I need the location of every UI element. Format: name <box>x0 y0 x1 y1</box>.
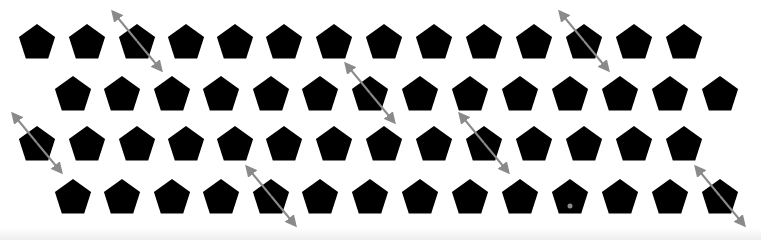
pentagon-icon <box>602 76 638 110</box>
pentagon-icon <box>352 179 388 213</box>
pentagon-icon <box>104 179 140 213</box>
pentagon-icon <box>119 126 155 160</box>
pentagon-icon <box>416 126 452 160</box>
pentagon-icon <box>666 24 702 58</box>
pentagon-icon <box>69 126 105 160</box>
pentagon-icon <box>104 76 140 110</box>
pentagon-icon <box>203 179 239 213</box>
pentagon-icon <box>452 179 488 213</box>
pentagon-icon <box>253 76 289 110</box>
pentagon-icon <box>19 24 55 58</box>
dot-marker-icon <box>568 204 573 209</box>
pentagon-icon <box>316 24 352 58</box>
pentagon-icon <box>55 179 91 213</box>
pentagon-icon <box>516 24 552 58</box>
pentagon-icon <box>466 24 502 58</box>
pentagon-icon <box>203 76 239 110</box>
pentagon-icon <box>168 126 204 160</box>
pentagon-icon <box>266 126 302 160</box>
pentagon-icon <box>516 126 552 160</box>
pentagon-icon <box>316 126 352 160</box>
pentagon-icon <box>366 126 402 160</box>
pentagon-icon <box>402 76 438 110</box>
pentagon-icon <box>168 24 204 58</box>
stimulus-canvas <box>0 0 761 240</box>
pentagon-icon <box>566 126 602 160</box>
shapes-layer <box>19 24 738 213</box>
pentagon-icon <box>302 76 338 110</box>
pentagon-icon <box>416 24 452 58</box>
pentagon-grid <box>0 0 761 240</box>
pentagon-icon <box>217 126 253 160</box>
pentagon-icon <box>452 76 488 110</box>
bottom-band <box>0 228 761 240</box>
pentagon-icon <box>217 24 253 58</box>
pentagon-icon <box>154 76 190 110</box>
pentagon-icon <box>154 179 190 213</box>
pentagon-icon <box>616 24 652 58</box>
pentagon-icon <box>266 24 302 58</box>
pentagon-icon <box>502 76 538 110</box>
pentagon-icon <box>666 126 702 160</box>
pentagon-icon <box>55 76 91 110</box>
pentagon-icon <box>402 179 438 213</box>
pentagon-icon <box>302 179 338 213</box>
pentagon-icon <box>652 76 688 110</box>
pentagon-icon <box>616 126 652 160</box>
pentagon-icon <box>502 179 538 213</box>
pentagon-icon <box>366 24 402 58</box>
pentagon-icon <box>602 179 638 213</box>
pentagon-icon <box>552 76 588 110</box>
pentagon-icon <box>69 24 105 58</box>
pentagon-icon <box>702 76 738 110</box>
pentagon-icon <box>652 179 688 213</box>
